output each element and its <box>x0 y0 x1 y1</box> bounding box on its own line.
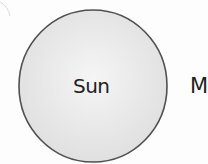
sun-label: Sun <box>73 76 110 96</box>
truncated-body-label: M <box>190 76 208 97</box>
diagram-canvas: Sun M <box>0 0 208 164</box>
faint-partial-arc <box>0 2 10 16</box>
